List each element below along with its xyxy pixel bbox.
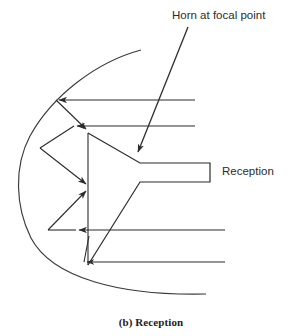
reflected-ray-3	[48, 191, 86, 230]
horn-focal-point-label: Horn at focal point	[172, 9, 266, 21]
reflected-ray-2	[40, 148, 86, 184]
horn-label-pointer-arrow	[138, 27, 188, 152]
parabolic-reflector-arc	[18, 50, 206, 294]
figure-caption: (b) Reception	[0, 316, 302, 328]
reception-label: Reception	[222, 165, 274, 177]
figure-reception-antenna: Horn at focal point Reception (b) Recept…	[0, 0, 302, 336]
horn-feed-outline	[88, 133, 210, 265]
antenna-diagram: Horn at focal point Reception	[0, 0, 302, 336]
reflected-ray-2-incident	[40, 126, 74, 148]
reflected-ray-1	[56, 100, 86, 129]
